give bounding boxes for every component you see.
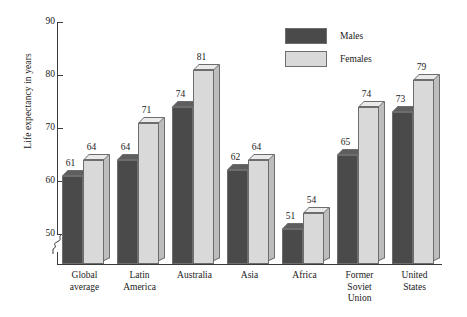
x-axis-line xyxy=(57,264,442,265)
bar-males[interactable]: 73 xyxy=(392,112,413,264)
plot-area: 6164647174816264515465747379 xyxy=(57,0,442,264)
bar-females[interactable]: 79 xyxy=(413,80,434,264)
bar-group: 7481 xyxy=(167,0,222,264)
legend-item-females: Females xyxy=(285,49,372,69)
bar-males[interactable]: 74 xyxy=(172,107,193,264)
y-tick-label-90: 90 xyxy=(31,16,55,26)
bar-females[interactable]: 64 xyxy=(248,160,269,264)
bar-front-face xyxy=(413,80,434,264)
category-label-line: Union xyxy=(321,293,399,305)
bar-value-label: 79 xyxy=(407,62,437,72)
bar-value-label: 62 xyxy=(221,152,251,162)
bar-females[interactable]: 64 xyxy=(83,160,104,264)
legend-swatch-males xyxy=(285,28,327,44)
y-tick-label-60: 60 xyxy=(31,175,55,185)
bar-value-label: 81 xyxy=(187,52,217,62)
bar-front-face xyxy=(392,112,413,264)
bar-value-label: 73 xyxy=(386,94,416,104)
bar-value-label: 64 xyxy=(111,142,141,152)
y-tick-label-80: 80 xyxy=(31,69,55,79)
bar-males[interactable]: 62 xyxy=(227,170,248,264)
y-tick-label-70: 70 xyxy=(31,122,55,132)
bar-value-label: 61 xyxy=(56,158,86,168)
bar-front-face xyxy=(303,213,324,264)
bar-females[interactable]: 54 xyxy=(303,213,324,264)
bar-females[interactable]: 74 xyxy=(358,107,379,264)
bar-front-face xyxy=(248,160,269,264)
bar-males[interactable]: 64 xyxy=(117,160,138,264)
bar-group: 6471 xyxy=(112,0,167,264)
bar-side-face xyxy=(269,154,275,261)
bar-group: 6264 xyxy=(222,0,277,264)
bar-value-label: 64 xyxy=(242,142,272,152)
y-tick-label-50: 50 xyxy=(31,228,55,238)
bar-front-face xyxy=(138,123,159,264)
category-label-line: States xyxy=(376,282,454,294)
bar-front-face xyxy=(282,229,303,264)
category-label-line: United xyxy=(376,270,454,282)
legend-swatch-females xyxy=(285,51,327,67)
bar-value-label: 65 xyxy=(331,137,361,147)
bar-front-face xyxy=(83,160,104,264)
bar-side-face xyxy=(324,207,330,261)
chart-legend: Males Females xyxy=(285,26,372,72)
bar-front-face xyxy=(117,160,138,264)
bar-side-face xyxy=(104,154,110,261)
y-axis-title: Life expectancy in years xyxy=(23,21,33,181)
bar-value-label: 74 xyxy=(352,89,382,99)
bar-value-label: 74 xyxy=(166,89,196,99)
bar-front-face xyxy=(227,170,248,264)
bar-males[interactable]: 61 xyxy=(62,176,83,264)
bar-males[interactable]: 51 xyxy=(282,229,303,264)
bar-front-face xyxy=(62,176,83,264)
bar-males[interactable]: 65 xyxy=(337,155,358,265)
bar-value-label: 51 xyxy=(276,211,306,221)
legend-label-males: Males xyxy=(340,31,363,41)
bar-value-label: 71 xyxy=(132,105,162,115)
legend-label-females: Females xyxy=(340,54,372,64)
bar-side-face xyxy=(159,117,165,261)
legend-item-males: Males xyxy=(285,26,372,46)
bar-value-label: 54 xyxy=(297,195,327,205)
bar-group: 6164 xyxy=(57,0,112,264)
bar-value-label: 64 xyxy=(77,142,107,152)
bar-group: 7379 xyxy=(387,0,442,264)
bar-females[interactable]: 71 xyxy=(138,123,159,264)
life-expectancy-bar-chart: Life expectancy in years 5060708090 6164… xyxy=(0,0,467,317)
bar-females[interactable]: 81 xyxy=(193,70,214,264)
category-label: UnitedStates xyxy=(376,270,454,293)
bar-front-face xyxy=(172,107,193,264)
bar-front-face xyxy=(193,70,214,264)
bar-side-face xyxy=(214,64,220,261)
bar-front-face xyxy=(337,155,358,265)
bar-front-face xyxy=(358,107,379,264)
category-label-line: America xyxy=(101,282,179,294)
bar-side-face xyxy=(434,74,440,261)
bar-side-face xyxy=(379,101,385,261)
